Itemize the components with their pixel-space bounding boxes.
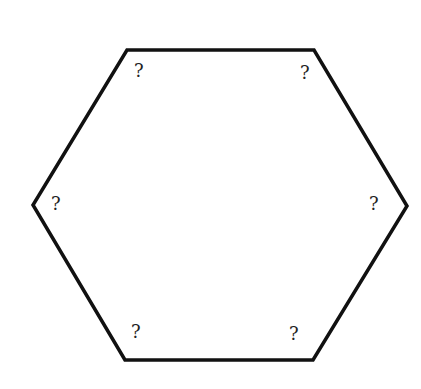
- vertex-label-bottom-left: ?: [131, 323, 141, 341]
- hexagon-diagram: [0, 0, 421, 389]
- vertex-label-left: ?: [51, 195, 61, 213]
- vertex-label-top-left: ?: [134, 62, 144, 80]
- vertex-label-bottom-right: ?: [289, 325, 299, 343]
- vertex-label-top-right: ?: [300, 64, 310, 82]
- hexagon-outline: [33, 50, 407, 360]
- vertex-label-right: ?: [369, 195, 379, 213]
